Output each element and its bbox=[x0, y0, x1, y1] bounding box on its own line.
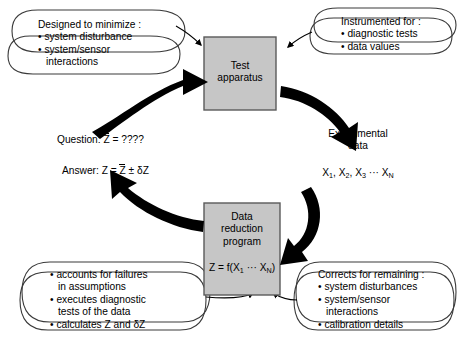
formula-mid: ··· X bbox=[244, 262, 267, 273]
box-data-reduction-label: Data reduction program bbox=[204, 211, 280, 248]
box-data-reduction-line1: Data bbox=[204, 211, 280, 223]
callout-bottom-left-continuation-1: tests of the data bbox=[50, 306, 148, 318]
callout-bottom-right-bullet-2: • calibration details bbox=[318, 319, 424, 331]
box-data-reduction-line2: reduction bbox=[204, 223, 280, 235]
box-test-apparatus-line2: apparatus bbox=[204, 72, 276, 84]
callout-top-right-text: Instrumented for : • diagnostic tests • … bbox=[341, 16, 421, 53]
callout-bottom-right-bullet-0: • system disturbances bbox=[318, 281, 424, 293]
box-data-reduction-line3: program bbox=[204, 236, 280, 248]
callout-top-left-heading: Designed to minimize : bbox=[38, 19, 141, 31]
answer-z-bar: Z bbox=[119, 165, 125, 177]
question-prefix: Question: bbox=[57, 134, 103, 145]
answer-rest: ± δZ bbox=[126, 165, 149, 176]
callout-bottom-right-heading: Corrects for remaining : bbox=[318, 269, 424, 281]
formula-prefix: Z = f(X bbox=[209, 262, 240, 273]
callout-bottom-right-continuation: interactions bbox=[318, 306, 424, 318]
diagram-text-layer: Test apparatus Data reduction program Z … bbox=[0, 0, 460, 357]
diagram-canvas: Test apparatus Data reduction program Z … bbox=[0, 0, 460, 357]
experimental-data-line2: data bbox=[348, 140, 368, 152]
answer-prefix: Answer: Z = bbox=[62, 165, 119, 176]
callout-top-right-bullet-0: • diagnostic tests bbox=[341, 28, 421, 40]
callout-top-left-bullet-0: • system disturbance bbox=[38, 31, 141, 43]
question-z-bar: Z bbox=[103, 134, 109, 146]
callout-top-left-bullet-1: • system/sensor bbox=[38, 44, 141, 56]
data-values-label: X1, X2, X3 ··· XN bbox=[322, 167, 394, 182]
callout-bottom-left-continuation-0: in assumptions bbox=[50, 281, 148, 293]
callout-bottom-right-text: Corrects for remaining : • system distur… bbox=[318, 269, 424, 331]
box-test-apparatus-label: Test apparatus bbox=[204, 60, 276, 85]
callout-bottom-left-text: • accounts for failures in assumptions •… bbox=[50, 269, 148, 331]
callout-bottom-left-bullet-2: • calculates Z and δZ bbox=[50, 319, 148, 331]
box-data-reduction-formula: Z = f(X1 ··· XN) bbox=[204, 262, 280, 277]
callout-top-left-continuation: interactions bbox=[38, 56, 141, 68]
question-rest: = ???? bbox=[110, 134, 144, 145]
callout-bottom-left-bullet-1: • executes diagnostic bbox=[50, 294, 148, 306]
experimental-data-line1: Experimental bbox=[328, 128, 387, 140]
question-label: Question: Z = ???? bbox=[57, 134, 144, 146]
callout-top-left-text: Designed to minimize : • system disturba… bbox=[38, 19, 141, 69]
callout-top-right-bullet-1: • data values bbox=[341, 41, 421, 53]
callout-bottom-right-bullet-1: • system/sensor bbox=[318, 294, 424, 306]
answer-label: Answer: Z = Z ± δZ bbox=[62, 165, 149, 177]
box-test-apparatus-line1: Test bbox=[204, 60, 276, 72]
formula-suffix: ) bbox=[272, 262, 275, 273]
callout-bottom-left-bullet-0: • accounts for failures bbox=[50, 269, 148, 281]
callout-top-right-heading: Instrumented for : bbox=[341, 16, 421, 28]
